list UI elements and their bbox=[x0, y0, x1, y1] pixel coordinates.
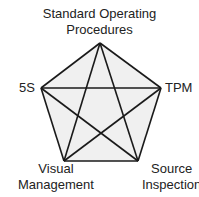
node-label-standard-operating-procedures: Standard Operating Procedures bbox=[0, 6, 199, 38]
node-label-tpm: TPM bbox=[165, 80, 192, 96]
label-line: Source bbox=[142, 161, 199, 177]
label-line: Visual bbox=[18, 161, 94, 177]
label-line: Procedures bbox=[0, 22, 199, 38]
node-label-visual-management: Visual Management bbox=[18, 161, 94, 193]
label-line: Management bbox=[18, 177, 94, 193]
node-label-source-inspection: Source Inspection bbox=[142, 161, 199, 193]
label-line: Inspection bbox=[142, 177, 199, 193]
node-label-5s: 5S bbox=[19, 80, 35, 96]
lean-tools-diagram: Standard Operating Procedures TPM Source… bbox=[0, 0, 199, 197]
label-line: Standard Operating bbox=[0, 6, 199, 22]
